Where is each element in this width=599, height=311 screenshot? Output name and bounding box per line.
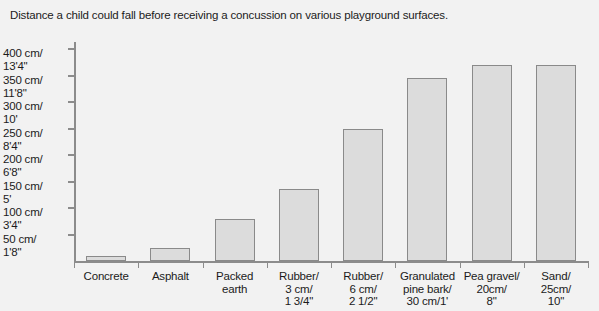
y-axis-tick — [68, 234, 75, 236]
y-axis-tick-label: 50 cm/ 1'8" — [3, 233, 65, 259]
bar — [472, 65, 512, 261]
y-axis-tick-label: 150 cm/ 5' — [3, 180, 65, 206]
y-axis-tick-label: 300 cm/ 10' — [3, 100, 65, 126]
x-axis-label: Granulated pine bark/ 30 cm/1' — [395, 270, 459, 308]
y-axis-tick — [68, 75, 75, 77]
plot-area: 50 cm/ 1'8"100 cm/ 3'4"150 cm/ 5'200 cm/… — [74, 42, 588, 262]
y-axis-tick-label: 250 cm/ 8'4" — [3, 127, 65, 153]
bar — [536, 65, 576, 261]
chart-title: Distance a child could fall before recei… — [10, 8, 448, 22]
y-axis-tick-label: 200 cm/ 6'8" — [3, 153, 65, 179]
x-axis-label: Sand/ 25cm/ 10" — [524, 270, 588, 308]
x-axis-tick — [395, 261, 396, 268]
x-axis-label: Rubber/ 6 cm/ 2 1/2" — [331, 270, 395, 308]
y-axis-tick — [68, 181, 75, 183]
bar — [279, 189, 319, 261]
x-axis-label: Rubber/ 3 cm/ 1 3/4" — [267, 270, 331, 308]
x-axis-label: Concrete — [74, 270, 138, 283]
x-axis-tick — [331, 261, 332, 268]
x-axis-label: Pea gravel/ 20cm/ 8" — [460, 270, 524, 308]
x-axis-label: Asphalt — [138, 270, 202, 283]
x-axis-tick — [138, 261, 139, 268]
x-axis-tick — [74, 261, 75, 268]
x-axis-tick — [460, 261, 461, 268]
bar — [407, 78, 447, 261]
bar — [86, 256, 126, 261]
y-axis-tick — [68, 154, 75, 156]
y-axis-tick — [68, 128, 75, 130]
x-axis-tick — [588, 261, 589, 268]
x-axis-tick — [524, 261, 525, 268]
x-axis-tick — [267, 261, 268, 268]
chart-figure: Distance a child could fall before recei… — [0, 0, 599, 311]
y-axis-tick — [68, 48, 75, 50]
x-axis-tick — [203, 261, 204, 268]
y-axis-tick-label: 350 cm/ 11'8" — [3, 74, 65, 100]
y-axis-tick — [68, 207, 75, 209]
bar — [150, 248, 190, 261]
bar — [215, 219, 255, 261]
bar — [343, 129, 383, 262]
y-axis-tick — [68, 101, 75, 103]
y-axis-tick-label: 100 cm/ 3'4" — [3, 206, 65, 232]
y-axis-tick-label: 400 cm/ 13'4" — [3, 47, 65, 73]
x-axis-label: Packed earth — [203, 270, 267, 295]
